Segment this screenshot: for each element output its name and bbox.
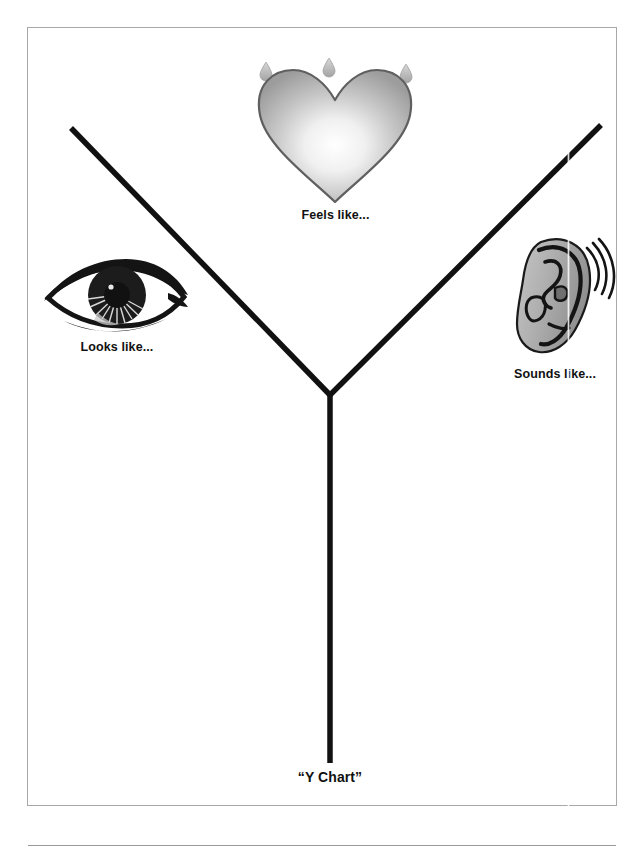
sound-wave-icons <box>587 239 614 298</box>
ear-icon <box>505 232 617 360</box>
bottom-divider <box>28 845 616 846</box>
eye-highlight <box>108 284 113 289</box>
heart-shape <box>259 70 411 202</box>
heart-icon-block <box>248 52 423 207</box>
page-title: “Y Chart” <box>230 769 430 785</box>
eye-icon-block <box>40 255 192 335</box>
branch-label-looks: Looks like... <box>38 340 196 354</box>
branch-label-sounds: Sounds like... <box>490 367 620 381</box>
sound-wave-icon-middle <box>593 243 606 294</box>
eye-icon <box>40 255 192 335</box>
ear-icon-block <box>505 232 617 360</box>
branch-label-feels: Feels like... <box>248 208 423 222</box>
sweat-droplet-icon-center <box>323 58 335 77</box>
heart-icon <box>248 52 423 207</box>
eye-pupil <box>104 282 130 308</box>
ear-tragus <box>555 286 567 300</box>
